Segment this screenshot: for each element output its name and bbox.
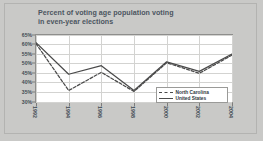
legend-item-label: United States bbox=[176, 96, 207, 101]
legend-item-label: North Carolina bbox=[176, 90, 209, 95]
y-axis-tick-label: 50% bbox=[14, 60, 32, 66]
x-axis-tick-label: 1992 bbox=[32, 106, 38, 118]
chart-title: Percent of voting age population voting … bbox=[38, 9, 218, 27]
x-axis-tick-label: 1994 bbox=[65, 106, 71, 118]
chart-legend: North CarolinaUnited States bbox=[156, 87, 228, 103]
y-axis-tick-label: 30% bbox=[14, 99, 32, 105]
plot-area: North CarolinaUnited States bbox=[35, 34, 233, 103]
x-axis-tick-label: 2004 bbox=[228, 106, 234, 118]
y-axis-tick-label: 40% bbox=[14, 79, 32, 85]
x-axis-tick-label: 2002 bbox=[195, 106, 201, 118]
series-line bbox=[36, 43, 232, 91]
y-axis-tick-label: 45% bbox=[14, 70, 32, 76]
y-axis-tick-label: 60% bbox=[14, 41, 32, 47]
x-axis-tick-label: 1996 bbox=[97, 106, 103, 118]
gridline-vertical bbox=[232, 35, 233, 102]
y-axis-tick-label: 65% bbox=[14, 32, 32, 38]
legend-item: United States bbox=[159, 96, 225, 103]
legend-line-swatch bbox=[159, 97, 173, 101]
y-axis-tick-label: 55% bbox=[14, 51, 32, 57]
chart-title-line-2: in even-year elections bbox=[38, 18, 218, 27]
y-axis-tick-label: 35% bbox=[14, 89, 32, 95]
legend-line-swatch bbox=[159, 90, 173, 94]
chart-title-line-1: Percent of voting age population voting bbox=[38, 9, 174, 17]
series-line bbox=[36, 42, 232, 90]
x-axis-tick-label: 1998 bbox=[130, 106, 136, 118]
x-axis-tick-label: 2000 bbox=[163, 106, 169, 118]
chart-figure: Percent of voting age population voting … bbox=[0, 0, 263, 141]
